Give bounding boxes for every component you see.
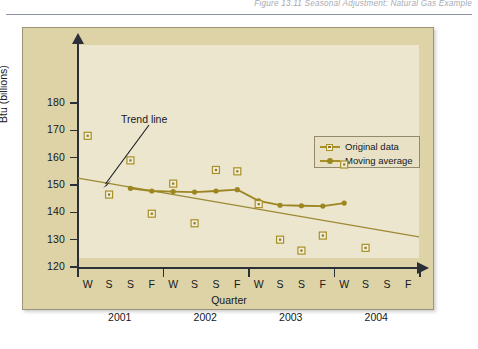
moving-average-point (149, 188, 154, 193)
x-axis-year-label: 2001 (90, 311, 150, 323)
x-axis-year-label: 2003 (261, 311, 321, 323)
original-data-point (277, 236, 284, 243)
moving-average-point (342, 200, 347, 205)
chart-data-layer (23, 28, 435, 311)
moving-average-point (277, 203, 282, 208)
chart-figure: Btu (billions) Quarter Trend line Origin… (22, 27, 434, 310)
trend-line-arrow-shaft (106, 125, 150, 184)
original-data-point (319, 232, 326, 239)
moving-average-point (213, 188, 218, 193)
x-axis-year-label: 2004 (346, 311, 406, 323)
original-data-point (106, 191, 113, 198)
moving-average-point (192, 190, 197, 195)
original-data-point (148, 210, 155, 217)
page-header: Figure 13.11 Seasonal Adjustment: Natura… (0, 0, 478, 20)
original-data-point (234, 168, 241, 175)
moving-average-point (299, 203, 304, 208)
original-data-point (298, 247, 305, 254)
moving-average-point (128, 186, 133, 191)
moving-average-point (235, 187, 240, 192)
y-axis-title: Btu (billions) (0, 65, 9, 123)
original-data-point (362, 244, 369, 251)
original-data-point (341, 161, 348, 168)
moving-average-point (320, 203, 325, 208)
original-data-point (84, 132, 91, 139)
moving-average-point (171, 189, 176, 194)
original-data-point (212, 166, 219, 173)
original-data-point (170, 180, 177, 187)
original-data-point (127, 157, 134, 164)
original-data-point (255, 201, 262, 208)
page-header-title: Figure 13.11 Seasonal Adjustment: Natura… (254, 0, 472, 8)
original-data-point (191, 220, 198, 227)
x-axis-year-label: 2002 (175, 311, 235, 323)
page-header-rule (6, 14, 472, 15)
